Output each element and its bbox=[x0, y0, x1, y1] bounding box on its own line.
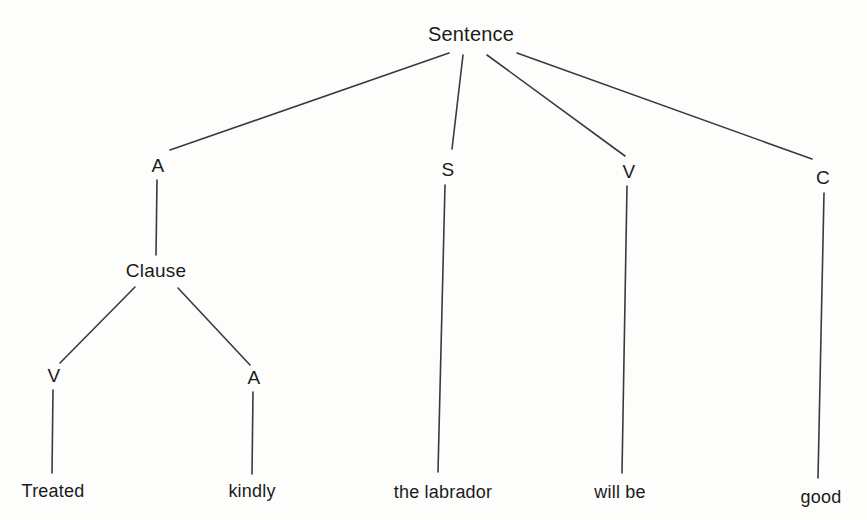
tree-node-leaf-verb: will be bbox=[594, 482, 645, 503]
tree-node-adverbial: A bbox=[152, 155, 165, 177]
syntax-tree-diagram: SentenceASVCClauseVATreatedkindlythe lab… bbox=[0, 0, 867, 520]
tree-node-clause: Clause bbox=[126, 260, 186, 282]
tree-node-verb: V bbox=[623, 161, 636, 183]
tree-node-clause-v: V bbox=[48, 365, 61, 387]
tree-node-complement: C bbox=[816, 167, 830, 189]
tree-edge-c-to-good bbox=[818, 193, 824, 478]
tree-node-root: Sentence bbox=[428, 23, 514, 46]
tree-edge-root-to-complement bbox=[517, 53, 812, 159]
tree-edge-v-to-treated bbox=[52, 390, 53, 473]
tree-node-subject: S bbox=[442, 159, 455, 181]
tree-edge-clause-to-v bbox=[60, 287, 135, 363]
tree-edge-clause-to-a bbox=[178, 288, 250, 365]
tree-edge-v-to-willbe bbox=[622, 186, 627, 473]
tree-edge-s-to-labrador bbox=[438, 185, 445, 472]
tree-node-leaf-treated: Treated bbox=[22, 481, 85, 502]
tree-edge-a-to-kindly bbox=[252, 392, 253, 474]
tree-node-leaf-comp: good bbox=[801, 487, 842, 508]
tree-edge-root-to-verb bbox=[487, 55, 625, 156]
tree-node-clause-a: A bbox=[248, 367, 261, 389]
tree-edge-root-to-adverbial bbox=[170, 53, 449, 150]
tree-node-leaf-subj: the labrador bbox=[394, 482, 492, 503]
tree-edge-root-to-subject bbox=[452, 55, 463, 149]
tree-edge-adverbial-to-clause bbox=[156, 180, 157, 255]
tree-node-leaf-kindly: kindly bbox=[228, 481, 275, 502]
